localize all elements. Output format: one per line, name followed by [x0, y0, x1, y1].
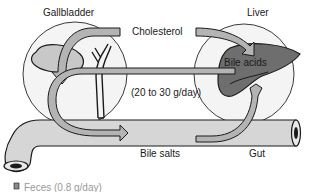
label-gallbladder: Gallbladder	[43, 8, 94, 18]
gut-lumen-left	[10, 164, 22, 169]
label-bile-salts: Bile salts	[140, 149, 180, 159]
label-liver: Liver	[247, 8, 269, 18]
label-gut: Gut	[249, 149, 265, 159]
label-feces: Feces (0.8 g/day)	[24, 183, 102, 192]
label-bile-acids: Bile acids	[224, 58, 267, 68]
gut-lumen-right	[294, 127, 298, 139]
feces-marker	[14, 183, 19, 189]
label-rate: (20 to 30 g/day)	[131, 88, 201, 98]
gut-tube	[5, 120, 296, 171]
label-cholesterol: Cholesterol	[132, 27, 183, 37]
